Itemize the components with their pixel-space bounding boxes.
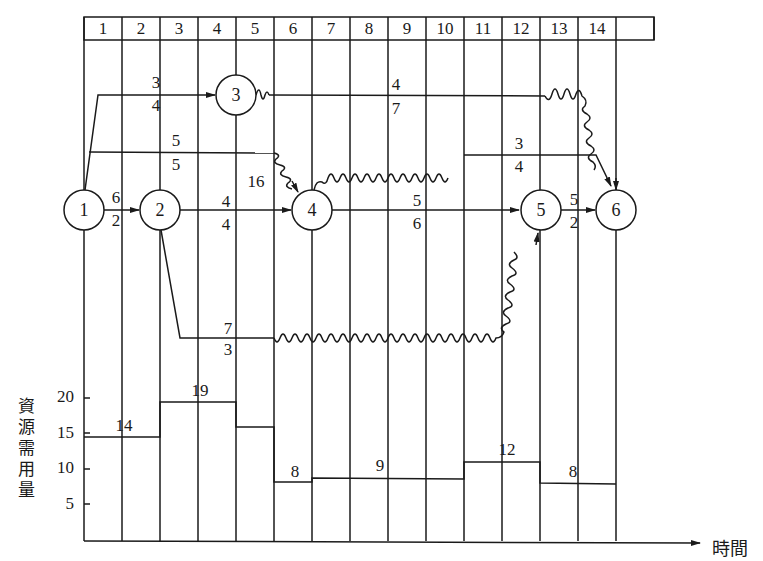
- node-label-2: 2: [140, 190, 180, 230]
- bar-label: 19: [180, 381, 220, 401]
- time-unit: 4: [198, 19, 236, 39]
- free-float-3-6: [545, 89, 595, 170]
- activity-label: 2: [104, 212, 128, 230]
- activity-label: 6: [104, 189, 128, 207]
- y-tick-10: 10: [34, 458, 74, 478]
- bar-label: 9: [360, 456, 400, 476]
- activity-1-4: [89, 152, 274, 153]
- activity-label: 4: [384, 76, 408, 94]
- activity-label: 3: [507, 135, 531, 153]
- activity-3-6: [269, 95, 545, 96]
- activity-label: 4: [507, 158, 531, 176]
- time-unit: 6: [274, 19, 312, 39]
- time-unit: 10: [426, 19, 464, 39]
- bar-label: 12: [487, 440, 527, 460]
- resource-label-day5: 16: [241, 173, 271, 191]
- time-unit: 9: [388, 19, 426, 39]
- free-float-4-6: [314, 174, 448, 190]
- y-tick-15: 15: [34, 423, 74, 443]
- bar-label: 8: [275, 462, 315, 482]
- time-unit: 5: [236, 19, 274, 39]
- activity-label: 2: [562, 214, 586, 232]
- time-axis: [84, 541, 700, 543]
- time-unit: 2: [122, 19, 160, 39]
- y-axis-label: 資 源 需 用 量: [15, 396, 37, 501]
- activity-label: 7: [384, 100, 408, 118]
- activity-label: 4: [214, 216, 238, 234]
- activity-label: 4: [144, 97, 168, 115]
- activity-label: 3: [144, 74, 168, 92]
- free-float-3: [256, 90, 269, 99]
- activity-label: 5: [405, 192, 429, 210]
- activity-label: 3: [216, 341, 240, 359]
- node-label-1: 1: [64, 190, 104, 230]
- activity-label: 6: [405, 215, 429, 233]
- time-unit: 8: [350, 19, 388, 39]
- activity-label: 7: [216, 320, 240, 338]
- y-tick-20: 20: [34, 387, 74, 407]
- time-unit: 13: [540, 19, 578, 39]
- free-float-1-4: [274, 153, 292, 189]
- activity-label: 4: [214, 193, 238, 211]
- node-label-6: 6: [596, 190, 636, 230]
- activity-label: 5: [164, 156, 188, 174]
- y-tick-5: 5: [34, 494, 74, 514]
- bar-label: 8: [553, 462, 593, 482]
- node-label-4: 4: [292, 190, 332, 230]
- time-unit: 14: [578, 19, 616, 39]
- time-unit: 3: [160, 19, 198, 39]
- time-unit: 7: [312, 19, 350, 39]
- activity-label: 5: [164, 132, 188, 150]
- time-unit: 12: [502, 19, 540, 39]
- activity-label: 5: [562, 191, 586, 209]
- bar-label: 14: [104, 416, 144, 436]
- network-diagram: [0, 0, 763, 561]
- node-label-5: 5: [521, 190, 561, 230]
- node-label-3: 3: [216, 75, 256, 115]
- x-axis-label: 時間: [712, 534, 748, 560]
- time-unit: 11: [464, 19, 502, 39]
- free-float-2-5: [274, 252, 517, 342]
- time-unit: 1: [84, 19, 122, 39]
